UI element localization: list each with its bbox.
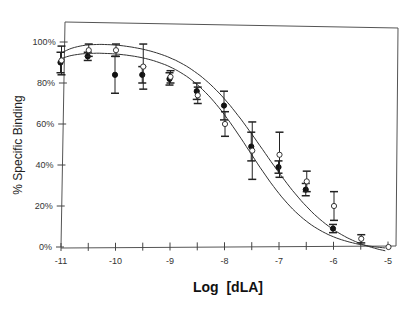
y-tick-label: 20% — [35, 201, 53, 211]
data-point-open — [113, 48, 118, 53]
x-tick-label: -8 — [220, 256, 228, 266]
data-point-filled — [112, 72, 117, 77]
data-point-open — [386, 244, 391, 249]
data-point-open — [59, 58, 64, 63]
fit-curve-filled — [61, 53, 385, 248]
x-tick-label: -9 — [166, 256, 174, 266]
data-point-filled — [221, 103, 226, 108]
data-point-filled — [276, 164, 281, 169]
data-point-open — [331, 203, 336, 208]
data-point-open — [141, 64, 146, 69]
x-tick-label: -7 — [275, 256, 283, 266]
data-point-open — [359, 236, 364, 241]
data-point-open — [195, 93, 200, 98]
x-tick-label: -10 — [109, 256, 122, 266]
data-points — [57, 44, 392, 250]
data-point-filled — [140, 72, 145, 77]
y-tick-label: 0% — [39, 242, 52, 252]
y-axis-title: % Specific Binding — [11, 95, 25, 194]
x-tick-label: -5 — [384, 256, 392, 266]
data-point-open — [250, 148, 255, 153]
y-tick-label: 80% — [37, 78, 55, 88]
x-axis-title: Log [dLA] — [193, 279, 263, 295]
y-tick-label: 60% — [36, 119, 54, 129]
data-point-open — [304, 179, 309, 184]
data-point-open — [86, 48, 91, 53]
y-tick-label: 100% — [33, 37, 56, 47]
x-tick-label: -11 — [55, 256, 67, 266]
y-tick-label: 40% — [35, 160, 53, 170]
x-tick-label: -6 — [329, 256, 337, 266]
binding-curve-chart: 0%20%40%60%80%100% -11-10-9-8-7-6-5 % Sp… — [0, 0, 409, 312]
data-point-open — [168, 74, 173, 79]
data-point-open — [222, 121, 227, 126]
x-axis: -11-10-9-8-7-6-5 — [55, 242, 392, 266]
data-point-filled — [330, 226, 335, 231]
data-point-open — [277, 152, 282, 157]
